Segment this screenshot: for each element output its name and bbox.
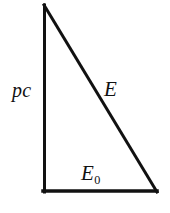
hypotenuse-line: [44, 5, 157, 192]
label-rest-energy-base: E: [81, 161, 94, 185]
label-total-energy: E: [104, 79, 117, 100]
label-rest-energy: E0: [81, 163, 100, 184]
label-rest-energy-subscript: 0: [94, 173, 100, 187]
label-momentum-times-c: pc: [12, 80, 31, 100]
figure-canvas: pc E E0: [0, 0, 170, 213]
